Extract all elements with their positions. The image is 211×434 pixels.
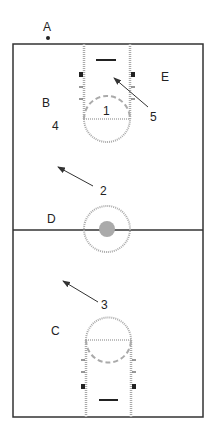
center-jump-spot (99, 221, 115, 237)
label-player-a: A (43, 20, 51, 34)
label-move-1: 1 (103, 104, 110, 118)
label-move-2: 2 (100, 184, 107, 198)
label-player-c: C (51, 324, 60, 338)
bottom-block-right (132, 384, 136, 389)
bottom-free-throw-arc-outer (86, 318, 131, 341)
top-lane (79, 44, 135, 142)
court-diagram: A B 4 E 1 5 2 D 3 C (0, 0, 211, 434)
label-move-3: 3 (101, 298, 108, 312)
bottom-free-throw-arc-inner (86, 340, 131, 363)
label-player-e: E (161, 70, 169, 84)
bottom-lane (81, 318, 136, 418)
bottom-block-left (81, 384, 85, 389)
top-block-right (131, 72, 135, 77)
arrow-2 (58, 167, 93, 186)
label-move-4: 4 (52, 119, 59, 133)
top-block-left (79, 72, 83, 77)
arrow-3 (63, 281, 98, 302)
top-free-throw-arc-outer (84, 119, 130, 142)
label-move-5: 5 (150, 110, 157, 124)
label-player-d: D (47, 212, 56, 226)
label-player-b: B (42, 96, 50, 110)
player-a-dot (46, 36, 50, 40)
